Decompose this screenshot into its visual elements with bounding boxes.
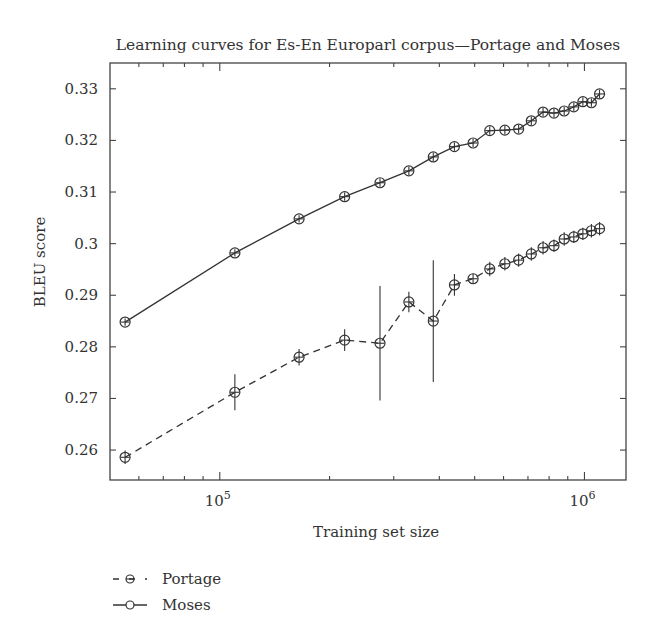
y-axis-label: BLEU score xyxy=(31,217,49,308)
x-tick-label: 105 xyxy=(205,489,231,510)
y-tick-label: 0.31 xyxy=(65,183,98,201)
y-tick-label: 0.28 xyxy=(65,338,98,356)
x-tick-label-exponent: 5 xyxy=(224,489,231,502)
series-moses xyxy=(120,89,604,327)
y-tick-label: 0.3 xyxy=(74,235,98,253)
x-tick-label-exponent: 6 xyxy=(588,489,595,502)
legend-moses-label: Moses xyxy=(162,596,211,614)
x-tick-label: 106 xyxy=(569,489,595,510)
legend-portage-label: Portage xyxy=(162,570,221,588)
series-layer xyxy=(120,89,604,464)
legend: Portage Moses xyxy=(113,570,221,614)
x-tick-label-base: 10 xyxy=(205,492,224,510)
series-line-portage xyxy=(125,229,599,458)
series-portage xyxy=(120,222,604,464)
legend-item-moses: Moses xyxy=(113,596,211,614)
series-line-moses xyxy=(125,94,599,322)
chart-title: Learning curves for Es-En Europarl corpu… xyxy=(116,36,621,54)
axis-tick-labels: 0.260.270.280.290.30.310.320.33105106 xyxy=(65,80,596,510)
legend-item-portage: Portage xyxy=(113,570,221,588)
axis-ticks xyxy=(110,63,626,480)
y-tick-label: 0.26 xyxy=(65,441,98,459)
y-tick-label: 0.27 xyxy=(65,389,98,407)
plot-frame xyxy=(110,63,626,480)
y-tick-label: 0.33 xyxy=(65,80,98,98)
learning-curve-chart: Learning curves for Es-En Europarl corpu… xyxy=(0,0,666,633)
x-axis-label: Training set size xyxy=(313,523,439,541)
plot-border xyxy=(110,63,626,480)
x-tick-label-base: 10 xyxy=(569,492,588,510)
y-tick-label: 0.32 xyxy=(65,131,98,149)
y-tick-label: 0.29 xyxy=(65,286,98,304)
legend-moses-marker xyxy=(126,601,134,609)
